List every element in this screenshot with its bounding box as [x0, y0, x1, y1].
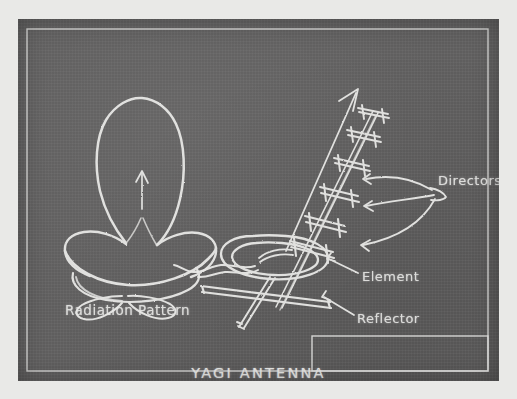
lower-bowl — [65, 248, 216, 285]
reflector-callout-arrow — [322, 291, 354, 315]
radiation-pattern-drawing — [65, 98, 216, 320]
chalkboard-surface: Radiation Pattern Directors Element Refl… — [18, 19, 499, 381]
label-reflector: Reflector — [357, 311, 420, 326]
label-radiation-pattern: Radiation Pattern — [65, 302, 190, 318]
chalk-drawing-layer — [18, 19, 499, 381]
chalk-illustration — [18, 19, 499, 381]
diagram-title: YAGI ANTENNA — [18, 365, 499, 381]
chalkboard-frame: Radiation Pattern Directors Element Refl… — [0, 0, 517, 399]
side-lobe-left — [65, 232, 126, 276]
direction-arrow-up — [136, 171, 148, 209]
mast-strut — [237, 277, 275, 329]
driven-element-stub — [259, 249, 293, 262]
main-lobe — [97, 98, 184, 245]
label-directors: Directors — [438, 173, 499, 188]
main-lobe-throat — [127, 218, 141, 242]
main-lobe-throat-2 — [143, 218, 156, 244]
rear-lobe-ring-2 — [76, 277, 122, 301]
element-callout-arrow — [327, 253, 358, 273]
reflector-element — [201, 286, 331, 308]
director-callout-arrows — [361, 174, 446, 251]
yagi-antenna-drawing — [174, 89, 446, 329]
label-element: Element — [362, 269, 419, 284]
